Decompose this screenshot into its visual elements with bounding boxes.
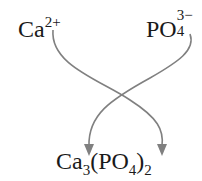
- crossing-arrows: [0, 0, 202, 181]
- arrow-anion-to-product: [84, 34, 191, 156]
- arrowhead-right-icon: [157, 144, 167, 156]
- arrow-cation-to-product: [53, 30, 167, 156]
- arrowhead-left-icon: [84, 144, 94, 156]
